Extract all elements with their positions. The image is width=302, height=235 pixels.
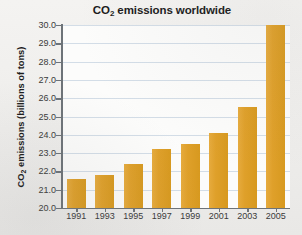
x-axis-tick-mark [219,208,220,212]
plot-area [62,25,290,208]
y-axis-tick-mark [56,208,61,209]
chart-title-subscript: 2 [110,9,114,18]
y-axis-tick-label: 20.0 [4,203,56,213]
y-axis-tick-label: 23.0 [4,148,56,158]
bar [209,133,228,208]
y-axis-tick-mark [56,43,61,44]
y-axis-tick-label: 27.0 [4,75,56,85]
x-axis-tick-mark [105,208,106,212]
x-axis-tick-mark [133,208,134,212]
y-axis-tick-mark [56,117,61,118]
x-axis-line [61,208,290,210]
y-axis-tick-label: 28.0 [4,57,56,67]
x-axis-tick-label: 2005 [259,211,293,221]
y-axis-tick-mark [56,98,61,99]
y-axis-tick-mark [56,153,61,154]
y-axis-tick-label: 26.0 [4,93,56,103]
chart-figure: CO2 emissions worldwide CO2 emissions (b… [0,0,302,235]
y-axis-tick-label: 22.0 [4,166,56,176]
bar [124,164,143,208]
bar [181,144,200,208]
y-axis-tick-mark [56,190,61,191]
bar [152,149,171,208]
y-axis-tick-mark [56,171,61,172]
y-axis-tick-label: 29.0 [4,38,56,48]
y-axis-tick-mark [56,25,61,26]
x-axis-tick-mark [76,208,77,212]
y-axis-tick-mark [56,80,61,81]
y-axis-tick-mark [56,62,61,63]
chart-title-prefix: CO [93,4,110,16]
y-axis-line [61,24,63,209]
bar [95,175,114,208]
y-axis-tick-labels: 30.029.028.027.026.025.024.023.022.021.0… [0,0,56,235]
y-axis-tick-label: 24.0 [4,130,56,140]
y-axis-tick-mark [56,135,61,136]
bar-series [62,25,290,208]
y-axis-tick-label: 25.0 [4,112,56,122]
bar [266,25,285,208]
x-axis-tick-mark [190,208,191,212]
bar [67,179,86,208]
x-axis-tick-mark [276,208,277,212]
x-axis-tick-mark [162,208,163,212]
chart-title-suffix: emissions worldwide [114,4,231,16]
x-axis-tick-mark [247,208,248,212]
y-axis-tick-label: 21.0 [4,185,56,195]
bar [238,107,257,208]
y-axis-tick-label: 30.0 [4,20,56,30]
